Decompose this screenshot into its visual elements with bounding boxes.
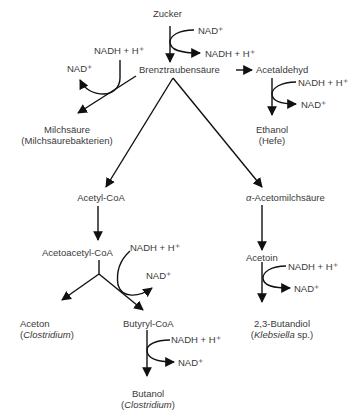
cofactor-nadh-butyryl: NADH + H⁺ (130, 242, 180, 253)
arrow-pyruvate-to-lactate (78, 76, 136, 113)
cofactor-curve-ethanol (272, 82, 296, 104)
node-brenztraubensaeure: Brenztraubensäure (139, 64, 220, 75)
organism-klebsiella: (Klebsiella sp.) (251, 329, 313, 340)
cofactor-nad-lactate: NAD⁺ (67, 63, 92, 74)
node-acetyl-coa: Acetyl-CoA (77, 192, 125, 203)
cofactor-nadh-butanol: NADH + H⁺ (171, 334, 221, 345)
cofactor-nad-glycolysis: NAD⁺ (198, 25, 223, 36)
arrow-pyruvate-to-acetolactate (173, 78, 262, 187)
cofactor-nadh-ethanol: NADH + H⁺ (298, 77, 348, 88)
cofactor-nad-butanol: NAD⁺ (178, 357, 203, 368)
node-butanol: Butanol (132, 388, 164, 399)
node-butandiol: 2,3-Butandiol (254, 318, 310, 329)
organism-clostridium-aceton: (Clostridium) (20, 329, 74, 340)
arrow-pyruvate-to-acetyl-coa (106, 78, 173, 187)
cofactor-nad-ethanol: NAD⁺ (301, 99, 326, 110)
cofactor-nad-butandiol: NAD⁺ (294, 283, 319, 294)
node-acetaldehyd: Acetaldehyd (256, 64, 308, 75)
node-acetoacetyl-coa: Acetoacetyl-CoA (42, 247, 113, 258)
node-ethanol: Ethanol (256, 124, 288, 135)
cofactor-nadh-glycolysis: NADH + H⁺ (205, 48, 255, 59)
node-zucker: Zucker (153, 8, 182, 19)
arrow-to-butyryl-coa (99, 274, 143, 310)
organism-hefe: (Hefe) (259, 135, 285, 146)
cofactor-curve-butanol (147, 340, 174, 362)
node-butyryl-coa: Butyryl-CoA (123, 318, 174, 329)
node-aceton: Aceton (20, 318, 50, 329)
node-milchsaeure: Milchsäure (44, 124, 90, 135)
cofactor-curve-butandiol (263, 266, 290, 288)
cofactor-nad-butyryl: NAD⁺ (146, 270, 171, 281)
cofactor-nadh-butandiol: NADH + H⁺ (288, 261, 338, 272)
node-acetomilchsaeure: α-Acetomilchsäure (246, 192, 325, 203)
fermentation-pathway-diagram: Zucker NAD⁺ NADH + H⁺ Brenztraubensäure … (0, 0, 364, 420)
arrow-to-aceton (62, 274, 99, 300)
cofactor-nadh-lactate: NADH + H⁺ (94, 45, 144, 56)
organism-milchsaeurebakterien: (Milchsäurebakterien) (21, 135, 112, 146)
node-acetoin: Acetoin (246, 252, 278, 263)
organism-clostridium-butanol: (Clostridium) (121, 399, 175, 410)
cofactor-curve-glycolysis (170, 30, 200, 53)
